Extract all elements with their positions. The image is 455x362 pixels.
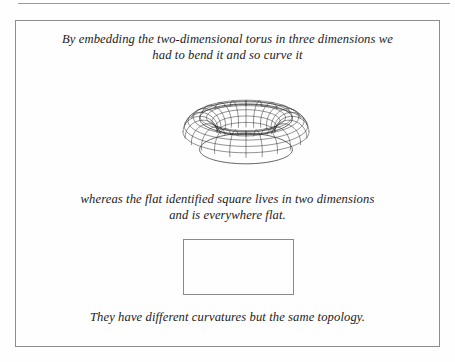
- top-rule-divider: [18, 3, 450, 4]
- caption-middle-line-1: whereas the flat identified square lives…: [16, 191, 439, 207]
- caption-top-line-2: had to bend it and so curve it: [16, 47, 439, 63]
- caption-top: By embedding the two-dimensional torus i…: [16, 31, 439, 63]
- torus-figure: [171, 83, 321, 178]
- caption-middle: whereas the flat identified square lives…: [16, 191, 439, 223]
- caption-top-line-1: By embedding the two-dimensional torus i…: [16, 31, 439, 47]
- caption-bottom: They have different curvatures but the s…: [16, 309, 439, 325]
- caption-middle-line-2: and is everywhere flat.: [16, 207, 439, 223]
- flat-identified-square: [183, 239, 294, 295]
- slide-frame: By embedding the two-dimensional torus i…: [15, 20, 440, 347]
- slide-page: By embedding the two-dimensional torus i…: [0, 0, 455, 362]
- torus-wireframe-svg: [171, 83, 321, 178]
- torus-mesh-group: [183, 100, 309, 164]
- caption-bottom-line-1: They have different curvatures but the s…: [16, 309, 439, 325]
